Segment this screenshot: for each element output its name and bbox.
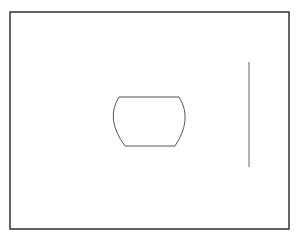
outer-frame [10,12,289,229]
diagram-canvas [0,0,297,236]
